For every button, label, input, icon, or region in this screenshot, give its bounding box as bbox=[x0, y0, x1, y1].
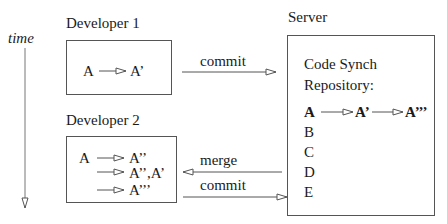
server-item-d: D bbox=[304, 164, 315, 180]
developer2-title: Developer 2 bbox=[66, 112, 140, 128]
dev2-version-1: A’’ bbox=[129, 150, 147, 166]
server-chain-2: A’’’ bbox=[405, 104, 427, 120]
server-heading-line1: Code Synch bbox=[304, 56, 377, 72]
time-label: time bbox=[8, 30, 34, 46]
server-chain-0: A bbox=[304, 104, 315, 120]
dev1-to-version: A’ bbox=[130, 63, 144, 79]
server-item-e: E bbox=[304, 184, 313, 200]
merge-label: merge bbox=[200, 152, 237, 168]
dev1-commit-label: commit bbox=[200, 53, 246, 69]
developer1-box bbox=[66, 40, 172, 95]
server-item-b: B bbox=[304, 124, 314, 140]
dev2-from-version: A bbox=[79, 150, 90, 166]
server-item-c: C bbox=[304, 144, 314, 160]
server-chain-1: A’ bbox=[355, 104, 370, 120]
server-title: Server bbox=[288, 9, 327, 25]
dev2-version-3: A’’’ bbox=[129, 182, 151, 198]
developer1-title: Developer 1 bbox=[66, 15, 140, 31]
server-heading-line2: Repository: bbox=[304, 77, 374, 93]
dev1-from-version: A bbox=[83, 63, 94, 79]
dev2-commit-label: commit bbox=[200, 177, 246, 193]
dev2-version-2: A’’,A’ bbox=[129, 165, 165, 181]
